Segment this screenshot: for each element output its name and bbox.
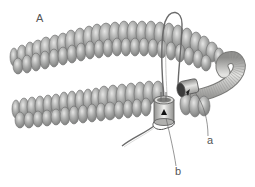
trailing-cord [122, 126, 154, 146]
callout-label-b: b [175, 166, 181, 177]
crimp-bead-b [153, 92, 174, 130]
upper-bead-strand [10, 21, 224, 74]
panel-label: A [36, 13, 43, 24]
callout-label-a: a [207, 135, 213, 146]
leader-line-b [166, 118, 176, 166]
beaded-strand-illustration [0, 0, 255, 187]
